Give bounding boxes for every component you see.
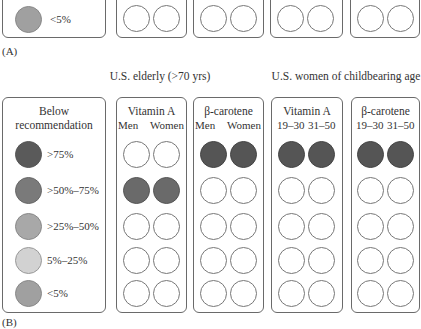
col-header: Women [150,119,184,131]
empty-circle-icon [357,5,384,32]
empty-circle-icon [123,280,150,307]
empty-circle-icon [308,280,335,307]
legend-swatch-5-25-icon [15,247,42,274]
legend-title-line2: recommendation [2,119,106,131]
empty-circle-icon [357,247,384,274]
legend-swatch-gt50-75-icon [15,177,42,204]
legend-label-5-25: 5%–25% [47,254,87,266]
legend-swatch-gt25-50-icon [15,213,42,240]
empty-circle-icon [153,213,180,240]
empty-circle-icon [230,247,257,274]
empty-circle-icon [307,5,334,32]
empty-circle-icon [200,247,227,274]
empty-circle-icon [387,213,414,240]
empty-circle-icon [278,280,305,307]
filled-circle-gt75-icon [387,141,414,168]
col-header: 31–50 [387,119,415,131]
empty-circle-icon [123,247,150,274]
legend-label-gt50-75: >50%–75% [47,184,99,196]
empty-circle-icon [308,213,335,240]
box-title: Vitamin A [116,105,187,117]
group-header-elderly: U.S. elderly (>70 yrs) [105,70,215,82]
col-header: 19–30 [356,119,384,131]
empty-circle-icon [278,177,305,204]
empty-circle-icon [200,213,227,240]
empty-circle-icon [357,280,384,307]
box-title: β-carotene [193,105,264,117]
legend-label-lt5: <5% [50,13,71,25]
empty-circle-icon [387,247,414,274]
empty-circle-icon [153,280,180,307]
empty-circle-icon [308,177,335,204]
legend-title-line1: Below [2,105,106,117]
legend-label-gt75: >75% [47,148,73,160]
box-title: Vitamin A [271,105,343,117]
empty-circle-icon [387,5,414,32]
legend-swatch-gt75-icon [15,141,42,168]
col-header: Men [118,119,138,131]
filled-circle-gt75-icon [200,141,227,168]
empty-circle-icon [153,247,180,274]
empty-circle-icon [123,213,150,240]
empty-circle-icon [123,5,150,32]
empty-circle-icon [200,177,227,204]
col-header: 31–50 [308,119,336,131]
legend-swatch-lt5-icon [15,6,42,33]
empty-circle-icon [357,177,384,204]
group-header-women: U.S. women of childbearing age [271,70,421,82]
empty-circle-icon [387,280,414,307]
legend-label-gt25-50: >25%–50% [47,220,99,232]
filled-circle-gt75-icon [308,141,335,168]
col-header: Women [227,119,261,131]
empty-circle-icon [357,213,384,240]
empty-circle-icon [153,141,180,168]
empty-circle-icon [200,280,227,307]
panel-b-label: (B) [2,316,17,328]
legend-label-lt5: <5% [47,287,68,299]
box-title: β-carotene [351,105,420,117]
empty-circle-icon [278,213,305,240]
empty-circle-icon [387,177,414,204]
empty-circle-icon [230,5,257,32]
col-header: 19–30 [277,119,305,131]
empty-circle-icon [230,213,257,240]
filled-circle-gt75-icon [230,141,257,168]
col-header: Men [195,119,215,131]
empty-circle-icon [277,5,304,32]
filled-circle-gt50-75-icon [123,177,150,204]
empty-circle-icon [123,141,150,168]
empty-circle-icon [278,247,305,274]
empty-circle-icon [308,247,335,274]
panel-a-label: (A) [2,45,17,57]
filled-circle-gt50-75-icon [153,177,180,204]
empty-circle-icon [230,280,257,307]
filled-circle-gt75-icon [278,141,305,168]
empty-circle-icon [200,5,227,32]
empty-circle-icon [153,5,180,32]
legend-swatch-lt5-icon [15,280,42,307]
empty-circle-icon [230,177,257,204]
filled-circle-gt75-icon [357,141,384,168]
